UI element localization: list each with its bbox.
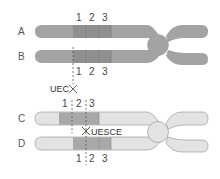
chromosome-label-b: B <box>18 51 25 62</box>
svg-text:2: 2 <box>89 66 95 77</box>
chromosome-a <box>35 25 208 42</box>
chromosome-d-band-3 <box>99 137 111 149</box>
chromosome-d-band-2 <box>86 137 99 149</box>
band-labels-below-b: 1 2 3 <box>76 66 108 77</box>
chromosome-a-band-2 <box>86 25 99 38</box>
centromere-cd <box>148 122 169 143</box>
band-labels-bottom: 1 2 3 <box>76 153 108 164</box>
svg-text:2: 2 <box>76 98 82 109</box>
svg-text:1: 1 <box>76 66 82 77</box>
uec-label: UEC <box>50 84 70 94</box>
svg-text:1: 1 <box>62 98 68 109</box>
chromosome-b <box>35 50 208 65</box>
chromosome-a-band-3 <box>99 25 111 38</box>
chromosome-d-right-arm <box>166 137 208 152</box>
chromosome-b-band-2 <box>86 50 99 63</box>
chromosome-label-d: D <box>18 138 25 149</box>
chromosome-c-band-3 <box>86 112 99 124</box>
chromosome-c-band-1 <box>59 112 72 124</box>
band-labels-above-c: 1 2 3 <box>62 98 95 109</box>
chromosome-a-right-arm <box>166 25 208 42</box>
uec-cross-icon <box>69 85 77 93</box>
chromosome-b-right-arm <box>166 50 208 65</box>
centromere-ab <box>148 35 169 56</box>
svg-text:3: 3 <box>89 98 95 109</box>
svg-text:3: 3 <box>102 12 108 23</box>
chromosome-label-c: C <box>18 113 25 124</box>
chromosome-label-a: A <box>18 26 25 37</box>
chromosome-d <box>35 137 208 152</box>
chromosome-b-band-3 <box>99 50 111 63</box>
chromosome-d-band-1 <box>73 137 86 149</box>
svg-text:3: 3 <box>102 66 108 77</box>
svg-text:2: 2 <box>89 12 95 23</box>
band-labels-top: 1 2 3 <box>76 12 108 23</box>
chromosome-a-band-1 <box>73 25 86 38</box>
chromosome-b-band-1 <box>73 50 86 63</box>
svg-text:3: 3 <box>102 153 108 164</box>
svg-text:1: 1 <box>76 153 82 164</box>
svg-text:2: 2 <box>89 153 95 164</box>
chromosome-c-right-arm <box>166 112 208 129</box>
svg-text:1: 1 <box>76 12 82 23</box>
uesce-label: UESCE <box>91 127 122 137</box>
chromosome-crossover-diagram: A B C D 1 2 3 1 2 3 UEC 1 2 3 <box>0 0 220 179</box>
chromosome-c-band-2 <box>72 112 86 124</box>
